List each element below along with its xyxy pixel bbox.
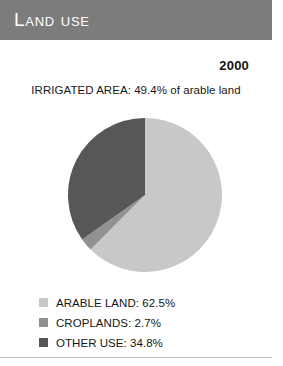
pie-chart xyxy=(68,118,222,272)
legend-item-croplands: CROPLANDS: 2.7% xyxy=(39,314,259,331)
legend-item-label: OTHER USE: 34.8% xyxy=(56,337,163,349)
chart-legend: ARABLE LAND: 62.5% CROPLANDS: 2.7% OTHER… xyxy=(39,294,259,354)
irrigated-area-subtitle: IRRIGATED AREA: 49.4% of arable land xyxy=(0,84,272,96)
legend-item-label: CROPLANDS: 2.7% xyxy=(56,317,161,329)
legend-item-label: ARABLE LAND: 62.5% xyxy=(56,297,175,309)
legend-swatch-icon xyxy=(39,318,48,327)
legend-item-arable-land: ARABLE LAND: 62.5% xyxy=(39,294,259,311)
footer-divider xyxy=(0,357,272,358)
legend-item-other-use: OTHER USE: 34.8% xyxy=(39,334,259,351)
year-label: 2000 xyxy=(219,58,249,73)
header-bar: LAND USE xyxy=(0,0,272,40)
legend-swatch-icon xyxy=(39,338,48,347)
page-title: LAND USE xyxy=(14,8,90,32)
legend-swatch-icon xyxy=(39,298,48,307)
pie-chart-svg xyxy=(68,118,222,272)
